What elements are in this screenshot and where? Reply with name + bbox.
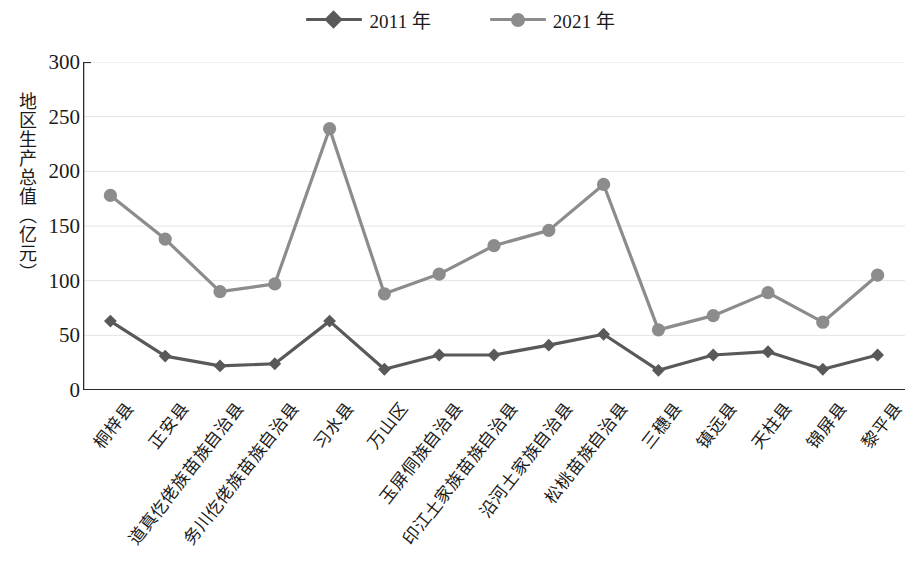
- y-axis-tick-labels: 050100150200250300: [22, 50, 80, 402]
- legend-item-2021: 2021 年: [490, 6, 616, 33]
- chart-svg: [83, 62, 905, 390]
- diamond-marker-icon: [325, 10, 343, 28]
- series-line-0: [110, 321, 877, 370]
- y-axis-tick-label: 300: [49, 52, 81, 73]
- data-point-marker: [762, 345, 775, 358]
- data-point-marker: [104, 189, 117, 202]
- data-point-marker: [652, 323, 665, 336]
- data-point-marker: [761, 286, 774, 299]
- legend-label-2011: 2011 年: [369, 6, 431, 33]
- data-point-marker: [707, 309, 720, 322]
- data-point-marker: [213, 285, 226, 298]
- plot-area: [83, 62, 905, 390]
- x-axis-category-label: 黎平县: [854, 396, 906, 453]
- circle-marker-icon: [511, 13, 525, 27]
- data-point-marker: [323, 122, 336, 135]
- y-axis-tick-label: 250: [49, 106, 81, 127]
- x-axis-category-label: 三穗县: [635, 396, 687, 453]
- y-axis-tick-label: 50: [59, 325, 80, 346]
- data-point-marker: [433, 349, 446, 362]
- legend-swatch-2011: [306, 12, 362, 26]
- x-axis-category-label: 天柱县: [745, 396, 797, 453]
- x-axis-category-label: 桐梓县: [87, 396, 139, 453]
- data-point-marker: [816, 316, 829, 329]
- x-axis-category-label: 正安县: [142, 396, 194, 453]
- data-point-marker: [487, 239, 500, 252]
- x-axis-category-label: 锦屏县: [799, 396, 851, 453]
- data-point-marker: [707, 349, 720, 362]
- data-point-marker: [816, 363, 829, 376]
- series-line-1: [110, 129, 877, 330]
- data-point-marker: [214, 360, 227, 373]
- legend-label-2021: 2021 年: [553, 6, 616, 33]
- legend-item-2011: 2011 年: [306, 6, 431, 33]
- data-point-marker: [871, 349, 884, 362]
- data-point-marker: [159, 233, 172, 246]
- chart-root: 2011 年 2021 年 地区生产总值（亿元） 050100150200250…: [0, 0, 922, 584]
- y-axis-tick-label: 150: [49, 216, 81, 237]
- x-axis-tick-labels: 桐梓县正安县道真仡佬族苗族自治县务川仡佬族苗族自治县习水县万山区玉屏侗族自治县印…: [0, 392, 922, 584]
- x-axis-category-label: 镇远县: [690, 396, 742, 453]
- data-point-marker: [433, 268, 446, 281]
- x-axis-category-label: 万山区: [361, 396, 413, 453]
- data-point-marker: [542, 224, 555, 237]
- legend-swatch-2021: [490, 12, 546, 26]
- data-point-marker: [268, 277, 281, 290]
- x-axis-category-label: 习水县: [306, 396, 358, 453]
- data-point-marker: [597, 178, 610, 191]
- data-point-marker: [488, 349, 501, 362]
- data-point-marker: [542, 339, 555, 352]
- data-point-marker: [871, 269, 884, 282]
- y-axis-tick-label: 100: [49, 270, 81, 291]
- chart-legend: 2011 年 2021 年: [0, 4, 922, 34]
- data-point-marker: [378, 287, 391, 300]
- y-axis-tick-label: 200: [49, 161, 81, 182]
